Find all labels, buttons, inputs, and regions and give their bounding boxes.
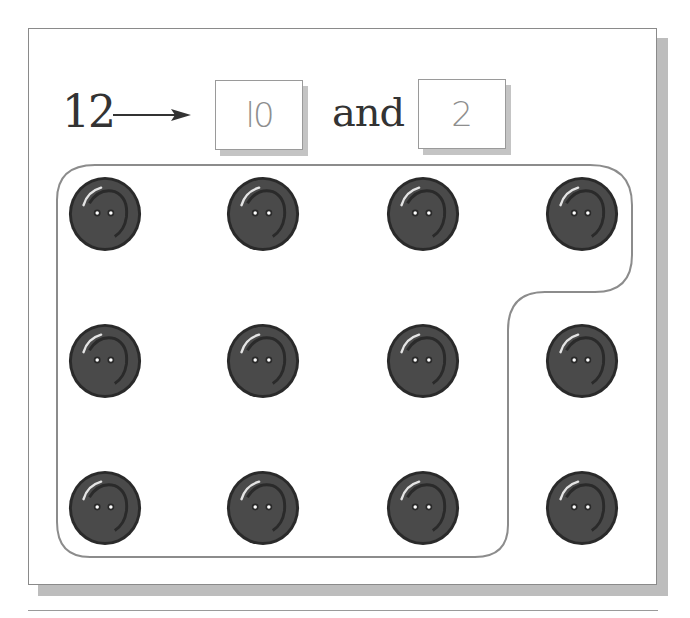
button-icon [224,468,302,546]
button-icon [543,468,621,546]
ones-box: 2 [418,79,506,149]
button-icon [384,174,462,252]
button-icon [224,321,302,399]
button-icon [543,174,621,252]
button-icon [384,468,462,546]
button-icon [543,321,621,399]
button-icon [384,321,462,399]
divider-rule [28,610,658,611]
total-number: 12 [62,82,114,142]
button-icon [66,468,144,546]
tens-value: l0 [245,95,272,135]
button-icon [66,174,144,252]
button-icon [224,174,302,252]
and-label: and [332,82,404,142]
ones-value: 2 [451,94,473,134]
button-icon [66,321,144,399]
arrow-right-icon [113,100,193,130]
tens-box: l0 [215,80,303,150]
